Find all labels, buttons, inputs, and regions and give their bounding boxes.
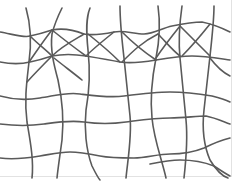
vertical-line-1 xyxy=(26,8,33,178)
horizontal-line-6 xyxy=(150,160,230,176)
diagonal-line-9 xyxy=(158,34,180,56)
horizontal-line-1 xyxy=(0,22,230,37)
diagonal-line-15 xyxy=(210,58,230,76)
horizontal-line-3 xyxy=(0,92,230,102)
diagonal-line-14 xyxy=(54,58,82,80)
horizontal-line-4 xyxy=(0,116,230,126)
vertical-line-7 xyxy=(203,6,228,178)
horizontal-line-2 xyxy=(0,55,230,64)
drawing-canvas xyxy=(0,0,238,182)
horizontal-line-5 xyxy=(0,138,230,159)
warped-grid-drawing xyxy=(0,0,238,182)
diagonal-line-4 xyxy=(52,34,84,56)
grid-lines xyxy=(0,6,230,180)
